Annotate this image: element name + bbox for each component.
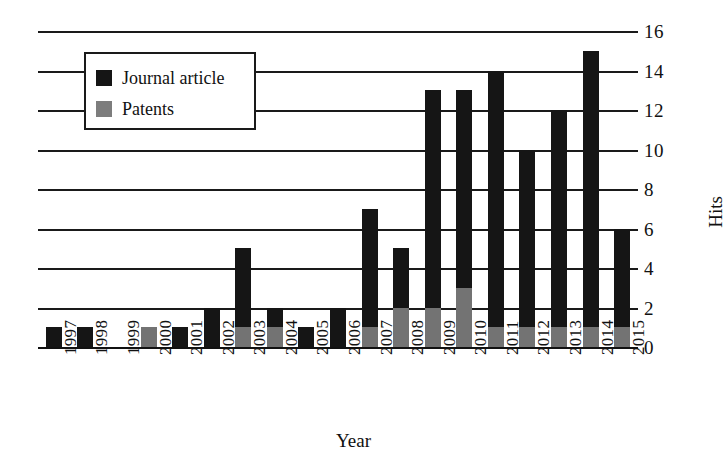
bar-slot-2005 [291,0,323,347]
bar-segment-journal-article-2015 [614,229,630,328]
legend-item-patents: Patents [96,93,254,124]
bar-2011 [488,71,504,348]
y-tick-label-4: 4 [644,259,654,278]
bar-slot-2004 [259,0,291,347]
legend-swatch-journal-article-icon [96,70,112,86]
bar-2014 [583,51,599,347]
x-tick-label-2000: 2000 [156,320,176,355]
bar-segment-journal-article-2003 [235,248,251,327]
bar-segment-journal-article-2014 [583,51,599,328]
y-tick-label-2: 2 [644,298,654,317]
bar-segment-journal-article-2010 [456,90,472,288]
x-tick-label-2003: 2003 [250,320,270,355]
x-tick-label-2009: 2009 [440,320,460,355]
bar-slot-2011 [480,0,512,347]
bar-segment-journal-article-2013 [551,110,567,327]
legend-swatch-patents-icon [96,101,112,117]
bar-slot-2009 [417,0,449,347]
bar-slot-2012 [512,0,544,347]
y-tick-label-12: 12 [644,101,664,120]
x-tick-label-1998: 1998 [92,320,112,355]
x-tick-label-2008: 2008 [408,320,428,355]
x-tick-label-1999: 1999 [124,320,144,355]
bar-slot-2006 [322,0,354,347]
x-tick-label-2013: 2013 [566,320,586,355]
legend-item-journal-article: Journal article [96,62,254,93]
bar-slot-2010 [449,0,481,347]
bar-2013 [551,110,567,347]
x-tick-label-2006: 2006 [345,320,365,355]
bar-slot-2013 [543,0,575,347]
bar-slot-2014 [575,0,607,347]
bar-segment-journal-article-1997 [46,327,62,347]
legend-box: Journal article Patents [84,52,256,130]
x-tick-label-2002: 2002 [219,320,239,355]
bar-slot-2007 [354,0,386,347]
bar-segment-journal-article-2007 [362,209,378,328]
y-tick-label-8: 8 [644,180,654,199]
x-axis-title: Year [0,430,707,452]
x-tick-label-2014: 2014 [598,320,618,355]
bar-2012 [519,150,535,348]
legend-label-journal-article: Journal article [122,69,224,87]
bar-segment-journal-article-2008 [393,248,409,307]
bar-segment-journal-article-2011 [488,71,504,328]
bar-slot-1997 [38,0,70,347]
y-tick-label-6: 6 [644,219,654,238]
x-tick-label-1997: 1997 [61,320,81,355]
x-tick-label-2005: 2005 [313,320,333,355]
x-tick-label-2012: 2012 [534,320,554,355]
x-tick-label-2004: 2004 [282,320,302,355]
y-tick-label-16: 16 [644,22,664,41]
legend-label-patents: Patents [122,100,174,118]
x-tick-label-2007: 2007 [377,320,397,355]
bar-slot-2008 [385,0,417,347]
bar-segment-journal-article-2009 [425,90,441,307]
y-tick-label-10: 10 [644,140,664,159]
y-axis-title: Hits [705,196,727,228]
bar-slot-2015 [606,0,638,347]
x-tick-label-2010: 2010 [471,320,491,355]
bar-segment-journal-article-2012 [519,150,535,328]
x-tick-label-2015: 2015 [629,320,649,355]
bar-2010 [456,90,472,347]
x-tick-label-2011: 2011 [503,320,523,355]
bar-1997 [46,327,62,347]
x-tick-label-2001: 2001 [187,320,207,355]
y-tick-label-14: 14 [644,61,664,80]
bar-2009 [425,90,441,347]
